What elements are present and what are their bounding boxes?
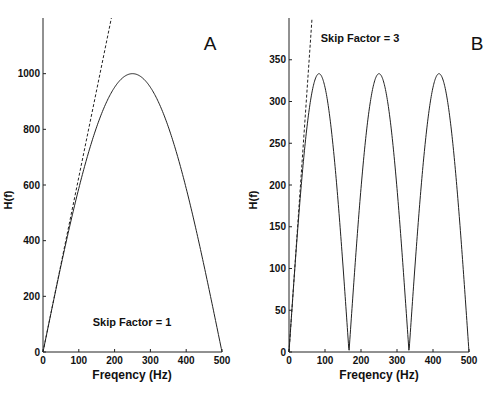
- y-tick-label: 100: [269, 263, 286, 274]
- dashed-line-series: [289, 18, 312, 352]
- x-tick-label: 200: [106, 355, 123, 366]
- x-axis-label: Freqency (Hz): [339, 368, 418, 382]
- x-tick-label: 500: [214, 355, 231, 366]
- solid-line-series: [289, 74, 469, 352]
- x-tick-label: 300: [142, 355, 159, 366]
- panel-a-plot: 010020030040050002004006008001000Freqenc…: [2, 18, 231, 382]
- y-axis-label: H(f): [2, 190, 14, 209]
- x-axis-label: Freqency (Hz): [92, 368, 171, 382]
- x-tick-label: 200: [353, 355, 370, 366]
- panel-b-plot: 0100200300400500050100150200250300350Fre…: [247, 18, 483, 382]
- y-tick-label: 150: [269, 221, 286, 232]
- panel-label: B: [471, 33, 484, 54]
- y-tick-label: 400: [23, 235, 40, 246]
- x-tick-label: 400: [425, 355, 442, 366]
- dashed-line-series: [43, 18, 111, 352]
- x-tick-label: 100: [317, 355, 334, 366]
- y-axis-label: H(f): [247, 190, 259, 209]
- y-tick-label: 350: [269, 54, 286, 65]
- solid-line-series: [43, 74, 222, 352]
- y-tick-label: 1000: [18, 68, 41, 79]
- y-tick-label: 50: [275, 305, 287, 316]
- skip-factor-annotation: Skip Factor = 1: [93, 316, 172, 328]
- y-tick-label: 200: [269, 180, 286, 191]
- y-tick-label: 0: [280, 347, 286, 358]
- y-tick-label: 200: [23, 291, 40, 302]
- skip-factor-annotation: Skip Factor = 3: [321, 32, 400, 44]
- x-tick-label: 500: [461, 355, 478, 366]
- x-tick-label: 300: [389, 355, 406, 366]
- y-tick-label: 600: [23, 180, 40, 191]
- x-tick-label: 0: [286, 355, 292, 366]
- y-tick-label: 250: [269, 138, 286, 149]
- x-tick-label: 0: [40, 355, 46, 366]
- x-tick-label: 100: [70, 355, 87, 366]
- chart-figure: 010020030040050002004006008001000Freqenc…: [0, 0, 499, 400]
- x-tick-label: 400: [178, 355, 195, 366]
- panel-label: A: [204, 33, 217, 54]
- y-tick-label: 800: [23, 124, 40, 135]
- y-tick-label: 300: [269, 96, 286, 107]
- y-tick-label: 0: [34, 347, 40, 358]
